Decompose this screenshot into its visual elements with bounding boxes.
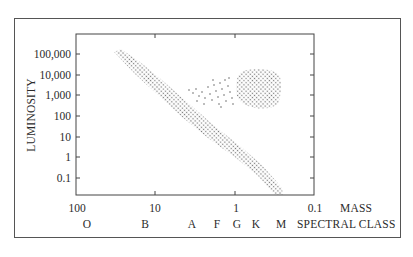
svg-text:B: B: [141, 218, 149, 230]
svg-text:M: M: [276, 218, 286, 230]
svg-text:F: F: [214, 218, 220, 230]
svg-text:O: O: [83, 218, 91, 230]
x-mass-tick-labels: 100 10 1 0.1: [68, 202, 322, 214]
x-mass-title: MASS: [340, 202, 372, 214]
svg-text:1: 1: [65, 151, 71, 163]
svg-text:A: A: [188, 218, 197, 230]
giant-scatter: [188, 77, 234, 108]
y-axis-title: LUMINOSITY: [25, 78, 37, 152]
svg-text:10: 10: [60, 131, 72, 143]
svg-text:G: G: [233, 218, 241, 230]
y-axis-ticks-right: [310, 54, 314, 178]
svg-text:0.1: 0.1: [308, 202, 323, 214]
svg-text:K: K: [252, 218, 261, 230]
x-axis-ticks-bottom: [155, 191, 235, 195]
svg-text:1: 1: [233, 202, 239, 214]
svg-text:0.1: 0.1: [57, 172, 72, 184]
svg-text:10: 10: [149, 202, 161, 214]
svg-text:100: 100: [54, 110, 72, 122]
svg-text:1,000: 1,000: [45, 89, 71, 102]
y-axis-ticks-left: [76, 54, 80, 178]
hr-diagram: 100,000 10,000 1,000 100 10 1 0.1 LUMINO…: [0, 0, 413, 257]
spectral-class-labels: O B A F G K M: [83, 218, 286, 230]
x-axis-ticks-top: [155, 34, 235, 38]
svg-text:10,000: 10,000: [39, 69, 71, 82]
svg-text:100: 100: [68, 202, 86, 214]
svg-text:100,000: 100,000: [34, 48, 72, 61]
red-giant-region: [236, 69, 281, 109]
x-spectral-title: SPECTRAL CLASS: [297, 218, 396, 230]
y-tick-labels: 100,000 10,000 1,000 100 10 1 0.1: [34, 48, 72, 184]
